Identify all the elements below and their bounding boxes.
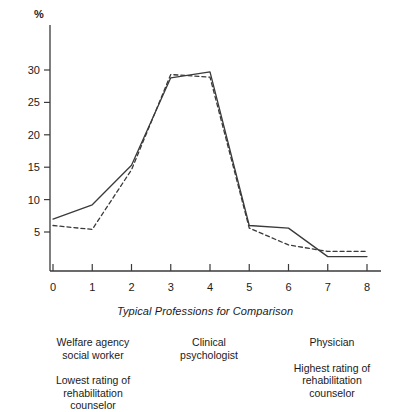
x-tick-label: 2 xyxy=(128,281,134,293)
caption-left-rating: Lowest rating ofrehabilitationcounselor xyxy=(18,374,168,412)
y-tick-label: 10 xyxy=(28,194,40,206)
caption-row: Welfare agencysocial worker Lowest ratin… xyxy=(0,336,410,401)
y-axis-unit-label: % xyxy=(34,8,44,20)
caption-right-profession: Physician xyxy=(262,336,402,349)
y-tick-label: 5 xyxy=(34,226,40,238)
x-axis-title: Typical Professions for Comparison xyxy=(0,305,410,317)
x-axis-ticks: 012345678 xyxy=(50,264,370,293)
caption-line: Welfare agency xyxy=(18,336,168,349)
caption-line: Clinical xyxy=(150,336,268,349)
series-line-dashed-series xyxy=(53,75,367,252)
x-tick-label: 7 xyxy=(325,281,331,293)
x-tick-label: 6 xyxy=(285,281,291,293)
x-tick-label: 3 xyxy=(168,281,174,293)
caption-middle-profession: Clinicalpsychologist xyxy=(150,336,268,361)
caption-left-profession: Welfare agencysocial worker xyxy=(18,336,168,361)
y-tick-label: 15 xyxy=(28,161,40,173)
caption-line: psychologist xyxy=(150,349,268,362)
x-tick-label: 5 xyxy=(246,281,252,293)
y-tick-label: 25 xyxy=(28,96,40,108)
y-tick-label: 20 xyxy=(28,129,40,141)
x-tick-label: 8 xyxy=(364,281,370,293)
caption-line: Lowest rating of xyxy=(18,374,168,387)
data-series-layer xyxy=(53,72,367,257)
caption-line: Highest rating of xyxy=(262,362,402,375)
caption-line: counselor xyxy=(262,387,402,400)
caption-line: counselor xyxy=(18,399,168,412)
y-axis-ticks: 51015202530 xyxy=(28,64,50,238)
y-tick-label: 30 xyxy=(28,64,40,76)
x-tick-label: 1 xyxy=(89,281,95,293)
caption-line: social worker xyxy=(18,349,168,362)
caption-middle: Clinicalpsychologist xyxy=(150,336,268,361)
caption-right-rating: Highest rating ofrehabilitationcounselor xyxy=(262,362,402,400)
caption-line: rehabilitation xyxy=(262,374,402,387)
x-tick-label: 0 xyxy=(50,281,56,293)
series-line-solid-series xyxy=(53,72,367,257)
caption-left: Welfare agencysocial worker Lowest ratin… xyxy=(18,336,168,412)
x-tick-label: 4 xyxy=(207,281,213,293)
caption-line: Physician xyxy=(262,336,402,349)
caption-right: Physician Highest rating ofrehabilitatio… xyxy=(262,336,402,399)
caption-line: rehabilitation xyxy=(18,387,168,400)
